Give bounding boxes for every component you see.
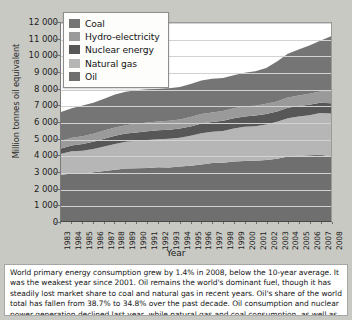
- legend-swatch-icon: [69, 45, 80, 54]
- x-axis-tick-mark: [234, 222, 235, 224]
- y-axis-tick-mark: [55, 155, 60, 156]
- y-axis-tick-mark: [55, 89, 60, 90]
- x-axis-tick-mark: [256, 222, 257, 224]
- y-axis-tick-label: 12 000: [18, 18, 58, 26]
- y-axis-tick-mark: [55, 55, 60, 56]
- legend-swatch-icon: [69, 32, 80, 41]
- y-axis-tick-label: 3 000: [18, 168, 58, 176]
- x-axis-tick-mark: [321, 222, 322, 224]
- legend-item: Hydro-electricity: [69, 30, 160, 43]
- x-axis-tick-mark: [71, 222, 72, 224]
- legend-item: Nuclear energy: [69, 43, 160, 56]
- legend-swatch-icon: [69, 59, 80, 68]
- x-axis-tick-mark: [332, 222, 333, 224]
- y-axis-tick-label: 4 000: [18, 151, 58, 159]
- y-axis-tick-mark: [55, 22, 60, 23]
- y-axis-tick-mark: [55, 222, 60, 223]
- x-axis-tick-mark: [114, 222, 115, 224]
- y-axis-tick-label: 8 000: [18, 85, 58, 93]
- chart-legend: CoalHydro-electricityNuclear energyNatur…: [63, 12, 169, 88]
- y-axis-tick-label: 11 000: [18, 35, 58, 43]
- x-axis-tick-mark: [136, 222, 137, 224]
- legend-item: Natural gas: [69, 57, 160, 70]
- y-axis-tick-label: 0: [18, 218, 58, 226]
- x-axis-tick-mark: [82, 222, 83, 224]
- y-axis-tick-labels: 12 00011 00010 0009 0008 0007 0006 0005 …: [18, 14, 58, 230]
- chart-page: Million tonnes oil equivalent 12 00011 0…: [0, 0, 352, 320]
- legend-item: Coal: [69, 17, 160, 30]
- legend-swatch-icon: [69, 19, 80, 28]
- gridline: [61, 190, 331, 191]
- legend-item-label: Oil: [85, 71, 97, 82]
- y-axis-tick-label: 2 000: [18, 185, 58, 193]
- gridline: [61, 90, 331, 91]
- y-axis-tick-mark: [55, 205, 60, 206]
- gridline: [61, 123, 331, 124]
- y-axis-tick-mark: [55, 189, 60, 190]
- y-axis-tick-label: 9 000: [18, 68, 58, 76]
- x-axis-tick-mark: [158, 222, 159, 224]
- x-axis-tick-mark: [278, 222, 279, 224]
- x-axis-tick-mark: [147, 222, 148, 224]
- chart-caption: World primary energy consumption grew by…: [4, 264, 348, 316]
- x-axis-tick-mark: [191, 222, 192, 224]
- y-axis-tick-mark: [55, 172, 60, 173]
- y-axis-tick-mark: [55, 72, 60, 73]
- legend-item-label: Hydro-electricity: [85, 31, 160, 42]
- y-axis-tick-label: 6 000: [18, 118, 58, 126]
- stacked-area-chart: Million tonnes oil equivalent 12 00011 0…: [0, 0, 352, 262]
- y-axis-tick-mark: [55, 122, 60, 123]
- x-axis-tick-mark: [60, 222, 61, 224]
- x-axis-tick-mark: [212, 222, 213, 224]
- x-axis-tick-mark: [299, 222, 300, 224]
- gridline: [61, 140, 331, 141]
- x-axis-tick-mark: [310, 222, 311, 224]
- x-axis-tick-mark: [223, 222, 224, 224]
- legend-item-label: Natural gas: [85, 58, 137, 69]
- x-axis-tick-mark: [169, 222, 170, 224]
- x-axis-tick-mark: [104, 222, 105, 224]
- y-axis-tick-label: 7 000: [18, 101, 58, 109]
- legend-item-label: Nuclear energy: [85, 44, 154, 55]
- x-axis-title: Year: [0, 248, 352, 258]
- gridline: [61, 173, 331, 174]
- x-axis-tick-mark: [245, 222, 246, 224]
- x-axis-tick-mark: [288, 222, 289, 224]
- x-axis-tick-mark: [125, 222, 126, 224]
- x-axis-tick-mark: [93, 222, 94, 224]
- gridline: [61, 206, 331, 207]
- legend-swatch-icon: [69, 72, 80, 81]
- x-axis-tick-mark: [267, 222, 268, 224]
- gridline: [61, 106, 331, 107]
- x-axis-tick-mark: [201, 222, 202, 224]
- y-axis-tick-label: 5 000: [18, 135, 58, 143]
- y-axis-tick-label: 1 000: [18, 201, 58, 209]
- y-axis-tick-label: 10 000: [18, 51, 58, 59]
- y-axis-tick-mark: [55, 105, 60, 106]
- legend-item-label: Coal: [85, 18, 105, 29]
- legend-item: Oil: [69, 70, 160, 83]
- y-axis-tick-mark: [55, 139, 60, 140]
- y-axis-tick-mark: [55, 39, 60, 40]
- x-axis-tick-mark: [180, 222, 181, 224]
- gridline: [61, 156, 331, 157]
